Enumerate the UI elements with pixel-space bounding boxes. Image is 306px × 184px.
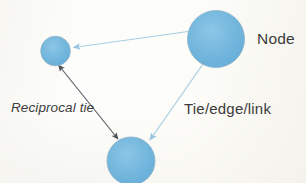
- edge-group: [59, 32, 204, 141]
- node-large: [188, 11, 245, 68]
- label-node: Node: [257, 30, 295, 48]
- node-group: [41, 11, 245, 184]
- node-small: [41, 36, 71, 66]
- label-reciprocal-tie: Reciprocal tie: [11, 100, 94, 115]
- network-graph: [0, 0, 306, 183]
- node-bottom: [107, 137, 155, 183]
- diagram-canvas: Node Reciprocal tie Tie/edge/link: [0, 0, 306, 183]
- edge-large-to-small: [74, 32, 189, 48]
- label-tie-edge-link: Tie/edge/link: [184, 100, 271, 117]
